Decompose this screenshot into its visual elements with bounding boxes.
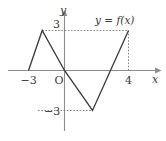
function-graph-figure: −3 O 4 3 −3 y x y = f(x) [0, 0, 166, 141]
function-label: y = f(x) [94, 14, 134, 26]
x-tick-label-neg3: −3 [21, 74, 37, 87]
x-tick-label-4: 4 [125, 74, 132, 87]
origin-label: O [55, 74, 64, 87]
x-axis-label: x [152, 73, 159, 86]
plot-canvas: −3 O 4 3 −3 y x y = f(x) [0, 0, 166, 141]
y-axis-label: y [59, 4, 67, 17]
y-tick-label-3: 3 [53, 18, 60, 31]
y-tick-label-neg3: −3 [44, 105, 60, 118]
